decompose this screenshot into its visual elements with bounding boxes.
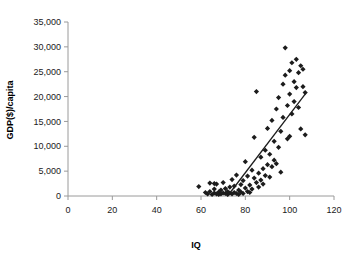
data-point: [269, 118, 274, 123]
scatter-chart: 05,00010,00015,00020,00025,00030,00035,0…: [0, 0, 352, 258]
data-point: [265, 126, 270, 131]
chart-canvas: 05,00010,00015,00020,00025,00030,00035,0…: [0, 0, 352, 258]
data-point: [252, 176, 257, 181]
data-point: [287, 91, 292, 96]
data-point: [276, 95, 281, 100]
data-point: [285, 103, 290, 108]
y-tick-label: 30,000: [33, 42, 61, 52]
data-point: [207, 180, 212, 185]
data-point: [274, 106, 279, 111]
y-tick-label: 0: [56, 191, 61, 201]
data-point: [245, 174, 250, 179]
y-tick-label: 5,000: [38, 166, 61, 176]
y-tick-label: 10,000: [33, 141, 61, 151]
x-axis-title: IQ: [191, 240, 201, 250]
data-point: [221, 180, 226, 185]
data-point: [269, 164, 274, 169]
data-point: [280, 82, 285, 87]
x-tick-label: 80: [240, 205, 250, 215]
data-point: [298, 126, 303, 131]
data-point: [267, 152, 272, 157]
data-point: [289, 60, 294, 65]
data-point: [265, 162, 270, 167]
data-point: [263, 173, 268, 178]
data-point: [267, 175, 272, 180]
x-tick-group: 020406080100120: [65, 196, 341, 215]
data-point: [229, 177, 234, 182]
data-point: [254, 89, 259, 94]
data-point: [296, 70, 301, 75]
y-axis-title: GDP($)/capita: [5, 79, 15, 139]
data-point: [234, 173, 239, 178]
data-point: [300, 84, 305, 89]
trendline-group: [228, 94, 306, 196]
data-point: [256, 171, 261, 176]
data-point: [196, 184, 201, 189]
trendline: [228, 94, 306, 196]
data-point: [287, 68, 292, 73]
x-tick-label: 20: [107, 205, 117, 215]
x-tick-label: 100: [282, 205, 297, 215]
x-tick-label: 60: [196, 205, 206, 215]
data-point: [283, 45, 288, 50]
data-point: [294, 85, 299, 90]
data-point: [256, 184, 261, 189]
y-tick-group: 05,00010,00015,00020,00025,00030,00035,0…: [33, 17, 68, 201]
data-points-group: [196, 45, 308, 197]
data-point: [276, 145, 281, 150]
y-tick-label: 15,000: [33, 117, 61, 127]
data-point: [254, 180, 259, 185]
y-tick-label: 35,000: [33, 17, 61, 27]
data-point: [243, 159, 248, 164]
data-point: [252, 135, 257, 140]
data-point: [283, 73, 288, 78]
data-point: [280, 115, 285, 120]
x-tick-label: 40: [152, 205, 162, 215]
data-point: [292, 79, 297, 84]
x-tick-label: 0: [65, 205, 70, 215]
data-point: [303, 132, 308, 137]
data-point: [227, 184, 232, 189]
data-point: [292, 99, 297, 104]
data-point: [249, 168, 254, 173]
data-point: [272, 139, 277, 144]
x-tick-label: 120: [326, 205, 341, 215]
y-tick-label: 25,000: [33, 67, 61, 77]
data-point: [260, 166, 265, 171]
data-point: [278, 170, 283, 175]
y-tick-label: 20,000: [33, 92, 61, 102]
data-point: [294, 57, 299, 62]
